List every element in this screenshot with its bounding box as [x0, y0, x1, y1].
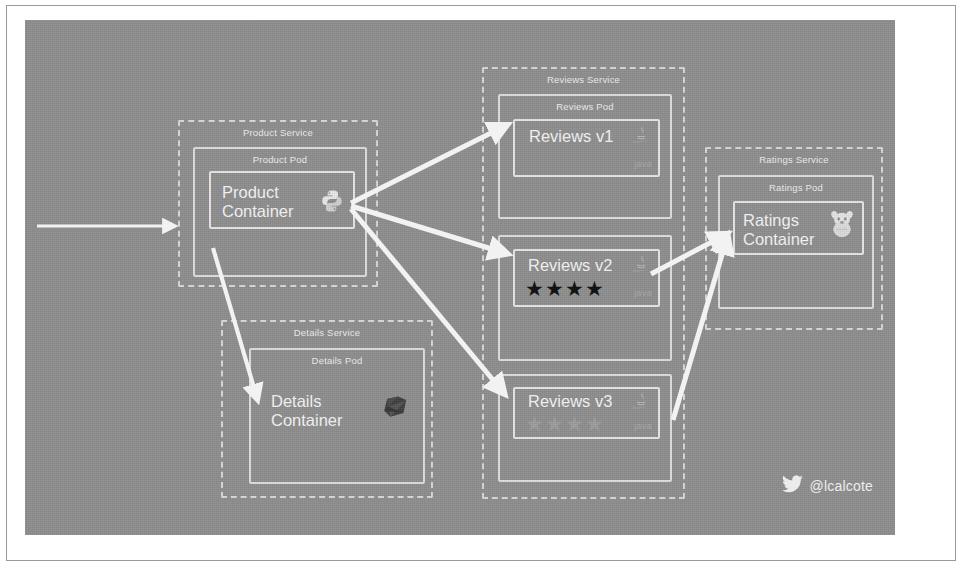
pod-product[interactable]: Product Pod Product Container — [193, 147, 367, 277]
rating-stars-v3: ★★★★ — [525, 413, 605, 434]
service-product-label: Product Service — [180, 127, 376, 138]
service-reviews[interactable]: Reviews Service Reviews Pod Reviews v1 — [482, 67, 685, 499]
container-product[interactable]: Product Container — [209, 171, 355, 229]
container-reviews-v3-title: Reviews v3 — [528, 392, 612, 411]
container-reviews-v1-title: Reviews v1 — [529, 127, 613, 146]
java-wordmark-v3: java — [634, 421, 652, 431]
java-icon — [633, 127, 648, 148]
service-details-label: Details Service — [223, 327, 431, 338]
container-ratings-title: Ratings Container — [743, 211, 815, 249]
container-details-title: Details Container — [271, 392, 343, 430]
diagram-canvas: Product Service Product Pod Product Cont… — [25, 20, 895, 535]
pod-reviews-v2[interactable]: Reviews v2 java ★★★★ — [498, 235, 672, 361]
java-wordmark-v1: java — [634, 159, 652, 169]
pod-reviews-v3[interactable]: Reviews v3 java ★★★★ — [498, 374, 672, 482]
pod-details[interactable]: Details Pod Details Container — [249, 348, 425, 484]
pod-reviews-v1[interactable]: Reviews Pod Reviews v1 java — [498, 94, 672, 219]
service-product[interactable]: Product Service Product Pod Product Cont… — [178, 120, 378, 287]
container-reviews-v3[interactable]: Reviews v3 java ★★★★ — [513, 387, 660, 439]
java-wordmark-v2: java — [634, 288, 652, 298]
service-details[interactable]: Details Service Details Pod Details Cont… — [221, 320, 433, 498]
service-ratings[interactable]: Ratings Service Ratings Pod Ratings Cont… — [705, 147, 883, 330]
java-icon — [633, 393, 648, 414]
attribution: @lcalcote — [782, 475, 873, 497]
pod-product-label: Product Pod — [195, 154, 365, 165]
container-ratings[interactable]: Ratings Container — [733, 201, 864, 255]
pod-reviews-label: Reviews Pod — [500, 101, 670, 112]
container-product-title: Product Container — [222, 183, 294, 221]
pod-details-label: Details Pod — [251, 355, 423, 366]
container-reviews-v1[interactable]: Reviews v1 java — [513, 119, 660, 177]
slide-screenshot: Product Service Product Pod Product Cont… — [0, 0, 967, 569]
rating-stars-v2: ★★★★ — [525, 278, 605, 299]
service-ratings-label: Ratings Service — [707, 154, 881, 165]
java-icon — [633, 256, 648, 277]
twitter-handle: @lcalcote — [810, 478, 873, 494]
twitter-bird-icon — [782, 475, 803, 497]
service-reviews-label: Reviews Service — [484, 74, 683, 85]
nodejs-icon — [828, 209, 856, 243]
pod-ratings[interactable]: Ratings Pod Ratings Container — [718, 175, 874, 309]
pod-ratings-label: Ratings Pod — [720, 182, 872, 193]
ruby-icon — [381, 394, 407, 424]
python-icon — [319, 188, 345, 218]
container-reviews-v2[interactable]: Reviews v2 java ★★★★ — [513, 249, 660, 307]
container-reviews-v2-title: Reviews v2 — [528, 256, 612, 275]
